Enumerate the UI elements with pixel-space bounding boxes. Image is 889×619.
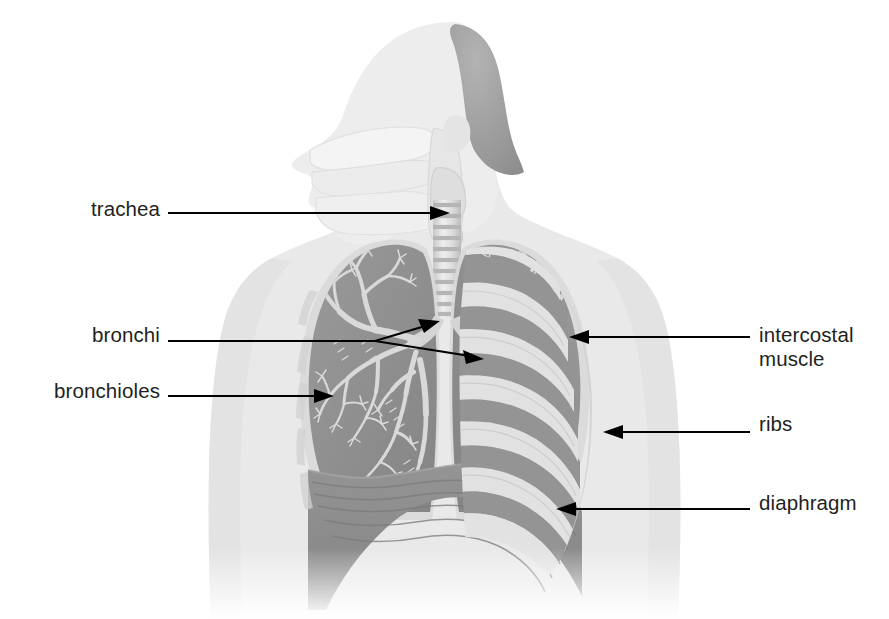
bottom-fade	[0, 430, 889, 619]
label-trachea: trachea	[91, 197, 160, 221]
label-intercostal-muscle: intercostal muscle	[759, 323, 854, 371]
respiratory-system-figure: trachea bronchi bronchioles intercostal …	[0, 0, 889, 619]
label-ribs: ribs	[759, 412, 792, 436]
anatomy-illustration	[0, 0, 889, 619]
label-bronchioles: bronchioles	[54, 379, 160, 403]
label-diaphragm: diaphragm	[759, 491, 857, 515]
label-bronchi: bronchi	[92, 323, 160, 347]
